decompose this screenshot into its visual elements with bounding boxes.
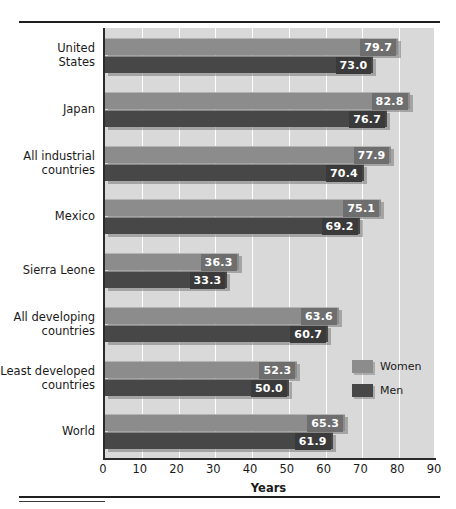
bar-women-2[interactable]: 77.9 [105, 146, 391, 163]
bar-value-label: 70.4 [326, 165, 362, 182]
x-axis-tick-labels: 0102030405060708090 [0, 462, 456, 478]
bar-men-2[interactable]: 70.4 [105, 164, 364, 181]
bar-value-label: 65.3 [307, 415, 343, 432]
x-tick-80: 80 [377, 462, 417, 476]
category-label-line: States [0, 55, 95, 69]
bar-women-0[interactable]: 79.7 [105, 38, 398, 55]
bar-value-label: 73.0 [336, 57, 372, 74]
bar-value-label: 60.7 [290, 326, 326, 343]
category-label-line: United [0, 41, 95, 55]
figure-container: 79.773.082.876.777.970.475.169.236.333.3… [0, 0, 456, 509]
x-tick-60: 60 [304, 462, 344, 476]
legend-label-women: Women [380, 360, 421, 373]
category-label-line: Sierra Leone [0, 263, 95, 277]
legend-item-men[interactable]: Men [352, 381, 421, 399]
category-label-0: UnitedStates [0, 41, 95, 69]
category-label-line: Least developed [0, 364, 95, 378]
bar-value-label: 36.3 [201, 254, 237, 271]
bar-men-0[interactable]: 73.0 [105, 56, 373, 73]
bar-women-4[interactable]: 36.3 [105, 253, 239, 270]
category-label-line: All developing [0, 310, 95, 324]
bar-women-7[interactable]: 65.3 [105, 414, 345, 431]
top-divider-rule [19, 21, 440, 23]
legend-swatch-women-icon [352, 360, 373, 373]
legend-label-men: Men [380, 384, 403, 397]
x-tick-40: 40 [230, 462, 270, 476]
bar-value-label: 52.3 [259, 362, 295, 379]
bar-men-1[interactable]: 76.7 [105, 110, 387, 127]
x-tick-90: 90 [414, 462, 454, 476]
bar-women-6[interactable]: 52.3 [105, 361, 297, 378]
category-label-2: All industrialcountries [0, 149, 95, 177]
bar-value-label: 75.1 [343, 200, 379, 217]
bar-value-label: 79.7 [360, 39, 396, 56]
category-label-line: countries [0, 163, 95, 177]
bar-men-5[interactable]: 60.7 [105, 325, 328, 342]
category-label-line: World [0, 424, 95, 438]
x-tick-0: 0 [83, 462, 123, 476]
bar-women-5[interactable]: 63.6 [105, 307, 339, 324]
bar-value-label: 50.0 [251, 380, 287, 397]
x-axis-line [103, 458, 436, 460]
bar-women-3[interactable]: 75.1 [105, 199, 381, 216]
bottom-divider-rule-short [19, 501, 105, 502]
legend-swatch-men-icon [352, 384, 373, 397]
category-label-line: All industrial [0, 149, 95, 163]
bar-value-label: 61.9 [295, 433, 331, 450]
legend: Women Men [352, 357, 421, 405]
bar-women-1[interactable]: 82.8 [105, 92, 410, 109]
bar-men-3[interactable]: 69.2 [105, 217, 360, 234]
x-tick-30: 30 [193, 462, 233, 476]
x-tick-70: 70 [340, 462, 380, 476]
bar-men-7[interactable]: 61.9 [105, 432, 333, 449]
bar-value-label: 77.9 [354, 147, 390, 164]
bar-men-6[interactable]: 50.0 [105, 379, 289, 396]
category-label-line: Japan [0, 102, 95, 116]
category-label-1: Japan [0, 102, 95, 116]
category-label-3: Mexico [0, 209, 95, 223]
category-label-line: Mexico [0, 209, 95, 223]
category-label-line: countries [0, 378, 95, 392]
category-label-6: Least developedcountries [0, 364, 95, 392]
bar-value-label: 82.8 [372, 93, 408, 110]
category-label-7: World [0, 424, 95, 438]
category-label-4: Sierra Leone [0, 263, 95, 277]
bottom-divider-rule [19, 496, 440, 498]
x-tick-50: 50 [267, 462, 307, 476]
x-axis-title: Years [103, 481, 434, 495]
x-tick-20: 20 [157, 462, 197, 476]
bar-value-label: 33.3 [190, 272, 226, 289]
bar-value-label: 69.2 [322, 218, 358, 235]
gridline-90 [436, 28, 437, 458]
x-tick-10: 10 [120, 462, 160, 476]
category-label-line: countries [0, 324, 95, 338]
bar-value-label: 63.6 [301, 308, 337, 325]
category-label-5: All developingcountries [0, 310, 95, 338]
bar-men-4[interactable]: 33.3 [105, 271, 227, 288]
legend-item-women[interactable]: Women [352, 357, 421, 375]
bar-value-label: 76.7 [349, 111, 385, 128]
